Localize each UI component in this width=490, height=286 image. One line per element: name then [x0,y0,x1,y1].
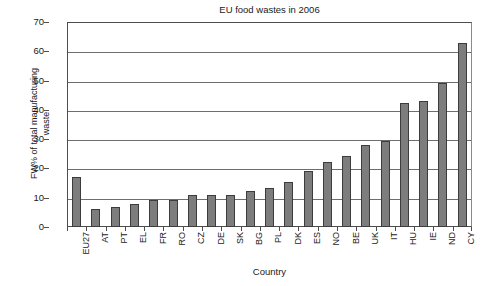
bar [207,195,216,227]
bar [72,177,81,227]
bar-slot [433,22,452,227]
bar [304,171,313,227]
x-tick-slot [163,227,182,231]
y-tickmark [44,110,49,111]
y-tick-label: 40 [4,105,44,115]
bar [438,83,447,227]
x-label-slot: PT [106,232,125,264]
x-tick-slot [106,227,125,231]
bar-slot [318,22,337,227]
bar-slot [356,22,375,227]
x-tickmark [163,227,164,231]
y-tick-label: 50 [4,76,44,86]
bar [265,188,274,227]
x-tickmark [433,227,434,231]
x-tickmark [453,227,454,231]
chart-title: EU food wastes in 2006 [67,4,472,16]
x-label-slot: DE [202,232,221,264]
y-tickmark [44,22,49,23]
bar [130,204,139,227]
bar-slot [163,22,182,227]
bar [381,141,390,227]
bar-slot [337,22,356,227]
x-tick-slot [221,227,240,231]
x-tick-slot [260,227,279,231]
x-axis-labels: EU27ATPTELFRROCZDESKBGPLDKESNOBEUKITHUIE… [67,232,472,264]
bar [323,162,332,227]
x-tickmark [318,227,319,231]
x-tickmark [183,227,184,231]
bar-slot [125,22,144,227]
bar [400,103,409,227]
bar [91,209,100,227]
x-tickmark [221,227,222,231]
y-tickmark [44,139,49,140]
bar-slot [298,22,317,227]
y-tickmark [44,51,49,52]
bar-slot [202,22,221,227]
x-label-slot: HU [395,232,414,264]
x-tick-slot [414,227,433,231]
x-tick-slot [144,227,163,231]
y-tickmark [44,198,49,199]
x-label-slot: IT [376,232,395,264]
x-tick-slot [356,227,375,231]
x-label-slot: AT [86,232,105,264]
x-label-slot: ES [298,232,317,264]
y-tickmark [44,227,49,228]
x-tick-slot [395,227,414,231]
x-label-slot: BG [241,232,260,264]
bar-slot [241,22,260,227]
x-label-slot: BE [337,232,356,264]
bar-chart: EU food wastes in 2006 FW% of total manu… [0,0,490,286]
bar-slot [260,22,279,227]
x-tickmark [376,227,377,231]
bar [361,145,370,227]
bar [246,191,255,227]
x-label-slot: EU27 [67,232,86,264]
x-tickmark [241,227,242,231]
y-tick-label: 20 [4,163,44,173]
x-label-slot: DK [279,232,298,264]
x-tickmark [260,227,261,231]
x-label-slot: UK [356,232,375,264]
bar [111,207,120,228]
x-tick-slot [183,227,202,231]
x-tick-slot [241,227,260,231]
x-axis-tickmarks [67,227,472,231]
bar-slot [67,22,86,227]
x-label-slot: ND [433,232,452,264]
bar-slot [183,22,202,227]
bar-slot [395,22,414,227]
x-tick-slot [298,227,317,231]
bar-slot [414,22,433,227]
x-tickmark [356,227,357,231]
y-tick-label: 60 [4,46,44,56]
y-tick-label: 0 [4,222,44,232]
x-label-slot: NO [318,232,337,264]
bar [342,156,351,227]
y-tick-label: 10 [4,193,44,203]
y-tickmark [44,81,49,82]
x-label-slot: CZ [183,232,202,264]
bar [419,101,428,227]
x-tickmark [86,227,87,231]
x-tick-slot [202,227,221,231]
y-tick-label: 70 [4,17,44,27]
x-tickmark [337,227,338,231]
x-tick-slot [67,227,86,231]
y-tick-label: 30 [4,134,44,144]
x-label-slot: RO [163,232,182,264]
bar [226,195,235,227]
x-tickmark [144,227,145,231]
x-label-slot: EL [125,232,144,264]
x-tickmark [395,227,396,231]
x-tick-slot [318,227,337,231]
x-tick-slot [125,227,144,231]
x-label-slot: IE [414,232,433,264]
x-tick-slot [86,227,105,231]
x-tickmark [125,227,126,231]
bar [169,200,178,227]
bar [149,200,158,227]
x-axis-title: Country [67,266,472,278]
